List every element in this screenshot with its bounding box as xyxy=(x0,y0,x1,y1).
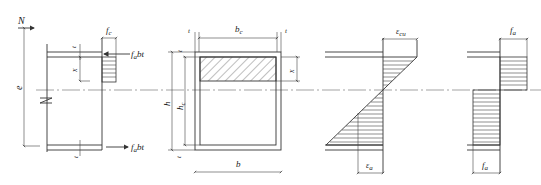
elevation-panel: N e t x fc xyxy=(13,15,145,158)
strain-profile xyxy=(326,40,417,145)
total-height-label: h xyxy=(162,101,172,106)
bottom-t-label: t xyxy=(72,155,80,158)
cross-section-panel: bc t t h hc t t x b xyxy=(162,24,300,172)
wall-t-top-label: t xyxy=(176,49,184,52)
steel-stress-panel: fa fa xyxy=(467,25,527,173)
top-steel-force-label: fabt xyxy=(131,49,145,61)
total-width-label: b xyxy=(236,159,241,169)
compression-stress-label: fa xyxy=(510,25,517,37)
section-diagram: N e t x fc xyxy=(0,0,541,185)
break-symbol xyxy=(40,98,52,103)
bottom-steel-force-label: fabt xyxy=(131,142,145,154)
compression-depth-label: x xyxy=(70,68,79,73)
concrete-stress-label: fc xyxy=(106,25,113,37)
core-width-label: bc xyxy=(235,24,244,36)
compression-zone-hatch xyxy=(200,57,276,81)
tension-stress-label: fa xyxy=(482,160,489,172)
steel-strain-label: εa xyxy=(366,161,373,172)
strain-panel: εcu εa xyxy=(325,27,417,173)
wall-t-left-label: t xyxy=(188,27,191,35)
wall-t-bottom-label: t xyxy=(175,155,183,158)
tension-stress-hatch xyxy=(473,94,500,142)
wall-t-right-label: t xyxy=(285,27,288,35)
eccentricity-label: e xyxy=(13,85,24,90)
axial-force-label: N xyxy=(17,15,26,26)
compression-stress-hatch xyxy=(500,61,527,85)
ultimate-strain-label: εcu xyxy=(396,27,406,38)
concrete-stress-hatch xyxy=(102,61,116,77)
top-t-label: t xyxy=(70,45,78,48)
compression-depth-label: x xyxy=(287,69,296,74)
